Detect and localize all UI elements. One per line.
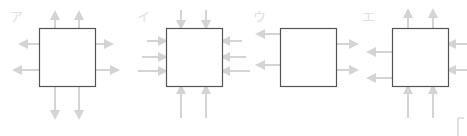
option-box-3 (393, 29, 449, 87)
option-box-2 (281, 29, 337, 87)
option-label-u: ウ (253, 10, 266, 23)
option-label-a: ア (10, 10, 23, 23)
option-box-1 (167, 29, 223, 87)
option-box-0 (40, 29, 96, 87)
option-label-e: エ (362, 10, 375, 23)
diagram-canvas (0, 0, 467, 136)
option-label-i: イ (137, 10, 150, 23)
